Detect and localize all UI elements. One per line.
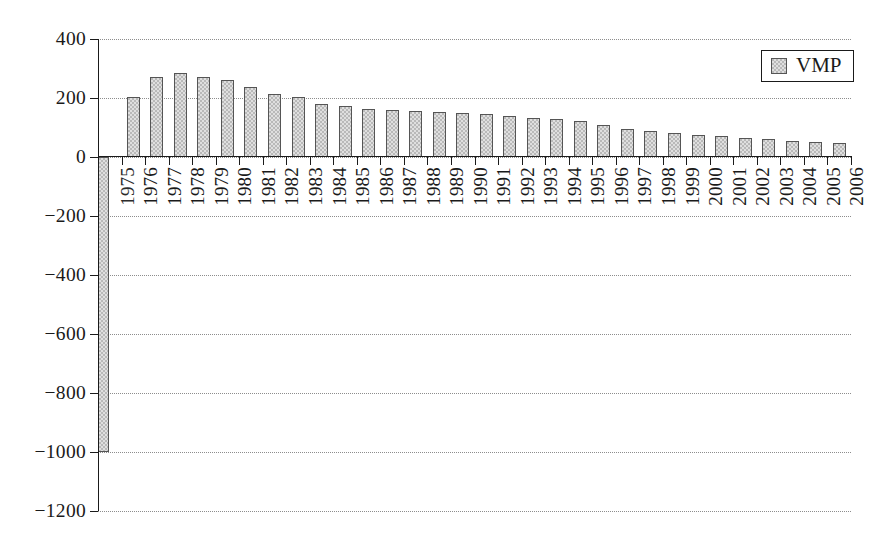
bar-2003 [762, 139, 775, 157]
y-tick--600 [90, 334, 98, 335]
gridline--200 [98, 216, 851, 217]
y-tick--800 [90, 393, 98, 394]
x-tick-5 [216, 156, 217, 165]
x-tick-label-1999: 1999 [683, 167, 702, 206]
x-tick-label-1976: 1976 [141, 167, 160, 206]
bar-1993 [527, 118, 540, 157]
x-tick-label-1997: 1997 [635, 167, 654, 206]
x-tick-2 [145, 156, 146, 165]
bar-chart: 4002000−200−400−600−800−1000−1200 197519… [0, 0, 883, 552]
x-tick-19 [545, 156, 546, 165]
legend: VMP [761, 50, 854, 82]
gridline-200 [98, 98, 851, 99]
bar-1980 [221, 80, 234, 157]
x-tick-label-1981: 1981 [259, 167, 278, 206]
bar-1985 [339, 106, 352, 157]
y-tick--1000 [90, 452, 98, 453]
x-tick-14 [427, 156, 428, 165]
x-tick-label-1995: 1995 [588, 167, 607, 206]
x-tick-26 [710, 156, 711, 165]
bar-2005 [809, 142, 822, 157]
x-tick-label-1985: 1985 [353, 167, 372, 206]
bar-1975 [98, 157, 109, 452]
x-tick-label-1990: 1990 [471, 167, 490, 206]
bar-1979 [197, 77, 210, 157]
x-tick-11 [357, 156, 358, 165]
x-tick-label-1983: 1983 [306, 167, 325, 206]
y-tick-label-0: 0 [0, 147, 86, 167]
y-tick-label-200: 200 [0, 88, 86, 108]
x-tick-29 [780, 156, 781, 165]
x-tick-label-1982: 1982 [282, 167, 301, 206]
x-tick-label-1975: 1975 [118, 167, 137, 206]
bar-1977 [150, 77, 163, 157]
bar-2006 [833, 143, 846, 157]
y-tick-label--1200: −1200 [0, 501, 86, 521]
y-tick-400 [90, 39, 98, 40]
x-tick-25 [686, 156, 687, 165]
plot-area [98, 39, 851, 511]
x-tick-label-2001: 2001 [730, 167, 749, 206]
x-tick-label-1992: 1992 [518, 167, 537, 206]
x-tick-16 [475, 156, 476, 165]
bar-1994 [550, 119, 563, 157]
legend-label-vmp: VMP [796, 55, 842, 76]
bar-1978 [174, 73, 187, 157]
bar-1990 [456, 113, 469, 157]
x-tick-10 [333, 156, 334, 165]
bar-1992 [503, 116, 516, 157]
gridline--1200 [98, 511, 851, 512]
x-tick-24 [663, 156, 664, 165]
bar-1982 [268, 94, 281, 157]
x-tick-7 [263, 156, 264, 165]
bar-2001 [715, 136, 728, 157]
x-tick-12 [380, 156, 381, 165]
y-tick-label--200: −200 [0, 206, 86, 226]
x-tick-label-1987: 1987 [400, 167, 419, 206]
y-tick-label-400: 400 [0, 29, 86, 49]
bar-2002 [739, 138, 752, 157]
gridline-400 [98, 39, 851, 40]
x-tick-label-1993: 1993 [541, 167, 560, 206]
bar-1984 [315, 104, 328, 157]
bar-1991 [480, 114, 493, 157]
x-tick-label-2005: 2005 [824, 167, 843, 206]
bar-1987 [386, 110, 399, 157]
x-tick-3 [169, 156, 170, 165]
y-tick-0 [90, 157, 98, 158]
bar-2004 [786, 141, 799, 157]
y-tick-label--600: −600 [0, 324, 86, 344]
legend-swatch-vmp [771, 58, 787, 74]
x-tick-label-2004: 2004 [800, 167, 819, 206]
x-tick-label-2000: 2000 [706, 167, 725, 206]
x-tick-label-1978: 1978 [188, 167, 207, 206]
x-tick-label-1996: 1996 [612, 167, 631, 206]
bar-1983 [292, 97, 305, 157]
bar-1989 [433, 112, 446, 157]
bar-1981 [244, 87, 257, 157]
bar-1995 [574, 121, 587, 157]
x-tick-18 [522, 156, 523, 165]
x-tick-31 [827, 156, 828, 165]
x-tick-0 [98, 156, 99, 165]
x-tick-label-2003: 2003 [777, 167, 796, 206]
y-tick-label--400: −400 [0, 265, 86, 285]
gridline--600 [98, 334, 851, 335]
x-tick-20 [569, 156, 570, 165]
bar-1999 [668, 133, 681, 157]
x-tick-label-2002: 2002 [753, 167, 772, 206]
x-tick-17 [498, 156, 499, 165]
bar-1988 [409, 111, 422, 157]
y-tick-label--800: −800 [0, 383, 86, 403]
x-tick-27 [733, 156, 734, 165]
x-tick-label-1988: 1988 [424, 167, 443, 206]
x-tick-1 [122, 156, 123, 165]
x-tick-32 [851, 156, 852, 165]
y-tick-label--1000: −1000 [0, 442, 86, 462]
bar-1996 [597, 125, 610, 157]
x-tick-label-1991: 1991 [494, 167, 513, 206]
x-tick-22 [616, 156, 617, 165]
bar-1976 [127, 97, 140, 157]
bar-1998 [644, 131, 657, 157]
y-tick-200 [90, 98, 98, 99]
